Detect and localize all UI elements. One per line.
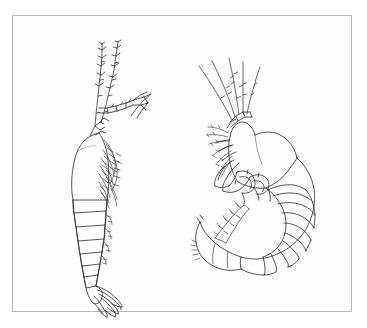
illustration-plate: Two crustacean specimens, lateral view — [0, 0, 367, 328]
plate-frame-border — [12, 15, 352, 312]
